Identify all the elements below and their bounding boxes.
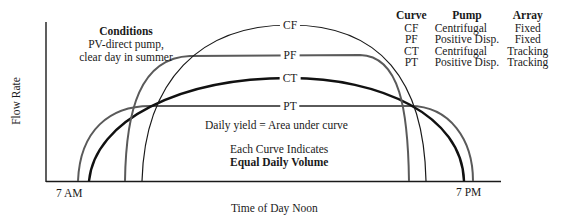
legend-row: PT Positive Disp. Tracking <box>392 57 552 69</box>
legend-pump: Positive Disp. <box>431 57 504 69</box>
x-tick-7am: 7 AM <box>56 187 83 200</box>
curve-label-pf: PF <box>281 49 300 61</box>
legend-array: Fixed <box>503 34 552 46</box>
y-axis-label: Flow Rate <box>10 77 22 125</box>
conditions-line-1: PV-direct pump, <box>66 38 186 51</box>
legend-pump: Positive Disp. <box>431 34 504 46</box>
conditions-line-2: clear day in summer <box>66 51 186 64</box>
legend-row: PF Positive Disp. Fixed <box>392 34 552 46</box>
legend-curve: PT <box>392 57 431 69</box>
x-tick-7pm: 7 PM <box>456 186 481 199</box>
equal-volume-line-1: Each Curve Indicates <box>230 143 328 156</box>
equal-volume-line-2: Equal Daily Volume <box>230 156 328 169</box>
legend-header-curve: Curve <box>392 10 431 23</box>
legend-header-pump: Pump <box>431 10 504 23</box>
flow-rate-figure: CF PF CT PT Conditions PV-direct pump, c… <box>0 0 572 221</box>
x-axis-label: Time of Day Noon <box>231 202 318 215</box>
curve-label-pt: PT <box>280 100 299 112</box>
legend: Curve Pump Array CF Centrifugal Fixed PF… <box>392 10 552 69</box>
curve-label-cf: CF <box>280 19 300 31</box>
conditions-block: Conditions PV-direct pump, clear day in … <box>66 25 186 64</box>
legend-array: Tracking <box>503 57 552 69</box>
conditions-heading: Conditions <box>66 25 186 38</box>
yield-annotation: Daily yield = Area under curve <box>205 119 348 132</box>
legend-header-array: Array <box>503 10 552 23</box>
legend-header-row: Curve Pump Array <box>392 10 552 23</box>
legend-curve: PF <box>392 34 431 46</box>
curve-label-ct: CT <box>280 72 301 84</box>
